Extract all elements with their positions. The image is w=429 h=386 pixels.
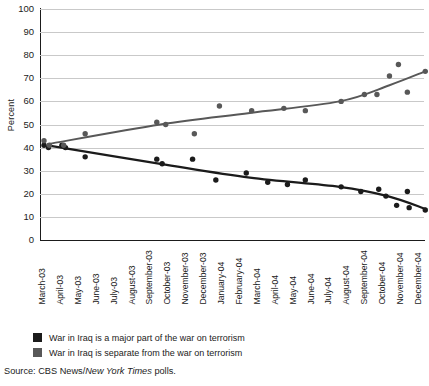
x-tick-label: August-04 [343,266,352,305]
x-tick-label: December-03 [200,253,209,305]
data-point [338,184,343,189]
x-tick-label: December-04 [414,253,423,305]
trend-line [48,145,426,209]
data-point [358,189,363,194]
y-tick-label: 90 [8,27,34,37]
y-tick-label: 40 [8,143,34,153]
x-tick-label: November-04 [396,253,405,305]
legend-label: War in Iraq is separate from the war on … [49,348,242,358]
data-point [387,73,392,78]
y-tick-label: 80 [8,50,34,60]
x-tick-label: April-04 [271,275,280,305]
y-tick-label: 70 [8,73,34,83]
legend-item[interactable]: War in Iraq is separate from the war on … [33,346,423,359]
data-point [303,108,308,113]
data-point [362,92,367,97]
data-point [41,138,46,143]
series-1 [41,143,428,213]
data-point [383,193,388,198]
series-2 [41,62,428,148]
x-tick-label: April-03 [56,275,65,305]
x-tick-label: March-03 [38,269,47,305]
series-layer [40,9,424,240]
y-tick-label: 30 [8,166,34,176]
x-tick-label: September-04 [361,251,370,305]
data-point [190,156,195,161]
x-tick-label: October-03 [164,262,173,305]
data-point [163,122,168,127]
data-point [396,62,401,67]
data-point [423,69,428,74]
x-axis-ticks: March-03April-03May-03June-03July-03Augu… [40,243,429,305]
x-tick-label: July-04 [325,277,334,305]
data-point [82,154,87,159]
data-point [265,180,270,185]
data-point [376,186,381,191]
data-point [281,106,286,111]
x-tick-label: June-04 [307,274,316,305]
data-point [213,177,218,182]
source-note: Source: CBS News/New York Times polls. [4,366,176,376]
data-point [406,205,411,210]
data-point [217,103,222,108]
y-tick-label: 100 [8,4,34,14]
data-point [82,131,87,136]
y-tick-label: 10 [8,212,34,222]
data-point [303,177,308,182]
x-tick-label: May-04 [289,276,298,305]
data-point [405,189,410,194]
y-tick-label: 60 [8,96,34,106]
data-point [285,182,290,187]
legend-swatch-icon [33,348,42,357]
data-point [61,143,66,148]
source-prefix: Source: CBS News/ [4,366,85,376]
data-point [47,143,52,148]
data-point [249,108,254,113]
data-point [394,203,399,208]
chart-legend: War in Iraq is a major part of the war o… [33,331,423,361]
y-tick-label: 50 [8,120,34,130]
data-point [159,161,164,166]
legend-swatch-icon [33,333,42,342]
y-axis-ticks: 1009080706050403020100 [4,0,34,250]
data-point [374,92,379,97]
data-point [154,156,159,161]
data-point [338,99,343,104]
plot-area [40,9,424,240]
y-tick-label: 20 [8,189,34,199]
x-tick-label: May-03 [74,276,83,305]
data-point [192,131,197,136]
x-tick-label: November-03 [182,253,191,305]
chart-figure: Percent 1009080706050403020100 March-03A… [0,0,429,386]
data-point [423,207,428,212]
x-tick-label: September-03 [146,251,155,305]
x-tick-label: January-04 [217,262,226,305]
trend-line [48,71,426,144]
data-point [405,89,410,94]
x-tick-label: July-03 [110,277,119,305]
legend-label: War in Iraq is a major part of the war o… [49,333,245,343]
data-point [244,170,249,175]
legend-item[interactable]: War in Iraq is a major part of the war o… [33,331,423,344]
data-point [154,119,159,124]
x-tick-label: March-04 [253,269,262,305]
x-tick-label: February-04 [235,258,244,305]
source-publication: New York Times [85,366,152,376]
x-tick-label: June-03 [92,274,101,305]
x-tick-label: October-04 [379,262,388,305]
y-tick-label: 0 [8,235,34,245]
x-tick-label: August-03 [128,266,137,305]
source-suffix: polls. [152,366,176,376]
